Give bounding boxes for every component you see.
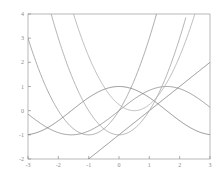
chart-figure: -3-2-10123 -2-101234 <box>0 0 223 176</box>
y-tick-label: -2 <box>10 156 24 162</box>
plot-background <box>0 0 223 176</box>
y-tick-label: 1 <box>10 84 24 90</box>
y-tick-label: -1 <box>10 132 24 138</box>
y-tick-label: 0 <box>10 108 24 114</box>
plot-canvas <box>0 0 223 176</box>
y-tick-label: 3 <box>10 35 24 41</box>
x-tick-label: 2 <box>178 162 181 168</box>
x-tick-label: 1 <box>148 162 151 168</box>
x-tick-label: 0 <box>118 162 121 168</box>
x-tick-label: -3 <box>26 162 31 168</box>
y-tick-label: 4 <box>10 11 24 17</box>
x-tick-label: -1 <box>86 162 91 168</box>
y-tick-label: 2 <box>10 59 24 65</box>
x-tick-label: -2 <box>56 162 61 168</box>
x-tick-label: 3 <box>209 162 212 168</box>
